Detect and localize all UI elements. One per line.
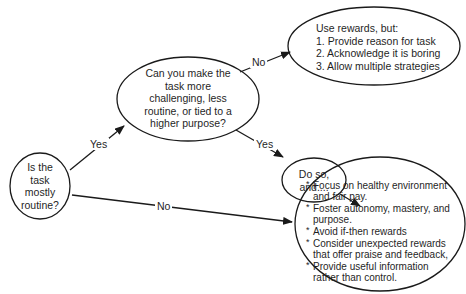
recommendation-item: Foster autonomy, mastery, and purpose.	[306, 203, 456, 225]
edge-label-no-1: No	[250, 56, 267, 68]
node-use-rewards-title: Use rewards, but:	[316, 22, 456, 35]
node-routine-line: task	[12, 174, 68, 187]
node-challenge-line: challenging, less	[130, 92, 246, 105]
node-use-rewards-item: 1. Provide reason for task	[316, 35, 456, 48]
node-use-rewards-item: 2. Acknowledge it is boring	[316, 47, 456, 60]
recommendation-item: Consider unexpected rewards that offer p…	[306, 238, 456, 260]
node-routine-line: Is the	[12, 161, 68, 174]
recommendation-item: Focus on healthy environment and fair pa…	[306, 180, 456, 202]
node-routine: Is the task mostly routine?	[12, 161, 68, 211]
edge-label-yes-2: Yes	[254, 138, 275, 150]
node-recommendations: Focus on healthy environment and fair pa…	[306, 180, 456, 284]
recommendation-item: Provide useful information rather than c…	[306, 261, 456, 283]
edge-routine-to-recommendations	[72, 195, 292, 222]
recommendations-list: Focus on healthy environment and fair pa…	[306, 180, 456, 283]
edge-label-yes-1: Yes	[88, 138, 109, 150]
recommendation-item: Avoid if-then rewards	[306, 226, 456, 237]
node-challenge-line: higher purpose?	[130, 117, 246, 130]
edge-label-no-2: No	[155, 200, 172, 212]
node-do-so-line: Do so,	[287, 168, 341, 181]
node-challenge: Can you make the task more challenging, …	[130, 67, 246, 130]
node-use-rewards-item: 3. Allow multiple strategies	[316, 60, 456, 73]
node-routine-line: routine?	[12, 199, 68, 212]
node-challenge-line: task more	[130, 80, 246, 93]
node-challenge-line: Can you make the	[130, 67, 246, 80]
node-use-rewards: Use rewards, but: 1. Provide reason for …	[316, 22, 456, 72]
node-challenge-line: routine, or tied to a	[130, 105, 246, 118]
node-routine-line: mostly	[12, 186, 68, 199]
